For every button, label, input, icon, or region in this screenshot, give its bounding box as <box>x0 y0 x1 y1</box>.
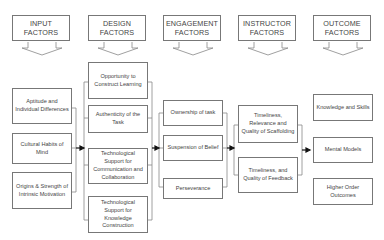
header-arrow-engagement <box>173 42 213 55</box>
header-arrow-outcome <box>323 42 363 55</box>
header-label: INSTRUCTOR FACTORS <box>243 19 291 37</box>
header-arrow-design <box>98 42 138 55</box>
box-label: Aptitude and Individual Differences <box>15 98 69 114</box>
input-cultural-habits-box: Cultural Habits of Mind <box>12 133 72 164</box>
instructor-scaffolding-box: Timeliness, Relevance and Quality of Sca… <box>238 105 298 143</box>
header-instructor-factors: INSTRUCTOR FACTORS <box>238 15 296 41</box>
header-input-factors: INPUT FACTORS <box>12 15 70 41</box>
box-label: Higher Order Outcomes <box>316 184 370 200</box>
header-label: OUTCOME FACTORS <box>323 19 360 37</box>
engagement-perseverance-box: Perseverance <box>163 178 223 199</box>
box-label: Origins & Strength of Intrinsic Motivati… <box>15 183 69 199</box>
engagement-suspension-box: Suspension of Belief <box>163 135 223 161</box>
box-label: Perseverance <box>176 185 211 193</box>
header-label: DESIGN FACTORS <box>100 19 135 37</box>
box-label: Technological Support for Knowledge Cons… <box>91 199 145 230</box>
box-label: Opportunity to Construct Learning <box>91 73 145 89</box>
outcome-knowledge-box: Knowledge and Skills <box>313 94 373 121</box>
design-opportunity-box: Opportunity to Construct Learning <box>88 62 148 99</box>
box-label: Technological Support for Communication … <box>91 150 145 181</box>
box-label: Timeliness, Relevance and Quality of Sca… <box>241 112 295 135</box>
arrow-engagement-to-instructor <box>230 146 234 150</box>
header-engagement-factors: ENGAGEMENT FACTORS <box>163 15 221 41</box>
header-label: INPUT FACTORS <box>24 19 59 37</box>
box-label: Ownership of task <box>171 109 216 117</box>
input-aptitude-box: Aptitude and Individual Differences <box>12 88 72 124</box>
arrow-input-to-design <box>80 146 84 150</box>
box-label: Authenticity of the Task <box>91 111 145 127</box>
design-tech-knowledge-box: Technological Support for Knowledge Cons… <box>88 196 148 233</box>
header-arrow-input <box>22 42 62 55</box>
box-label: Suspension of Belief <box>168 144 219 152</box>
box-label: Knowledge and Skills <box>316 104 369 112</box>
outcome-higher-order-box: Higher Order Outcomes <box>313 178 373 205</box>
instructor-feedback-box: Timeliness, and Quality of Feedback <box>238 157 298 193</box>
design-authenticity-box: Authenticity of the Task <box>88 105 148 133</box>
arrow-design-to-engagement <box>155 146 159 150</box>
header-design-factors: DESIGN FACTORS <box>88 15 146 41</box>
box-label: Cultural Habits of Mind <box>15 141 69 157</box>
header-label: ENGAGEMENT FACTORS <box>166 19 218 37</box>
input-motivation-box: Origins & Strength of Intrinsic Motivati… <box>12 172 72 209</box>
arrow-instructor-to-outcome <box>306 148 310 152</box>
box-label: Mental Models <box>325 146 361 154</box>
outcome-mental-models-box: Mental Models <box>313 137 373 163</box>
header-arrow-instructor <box>248 42 288 55</box>
box-label: Timeliness, and Quality of Feedback <box>241 167 295 183</box>
design-tech-communication-box: Technological Support for Communication … <box>88 148 148 184</box>
engagement-ownership-box: Ownership of task <box>163 100 223 126</box>
header-outcome-factors: OUTCOME FACTORS <box>313 15 371 41</box>
